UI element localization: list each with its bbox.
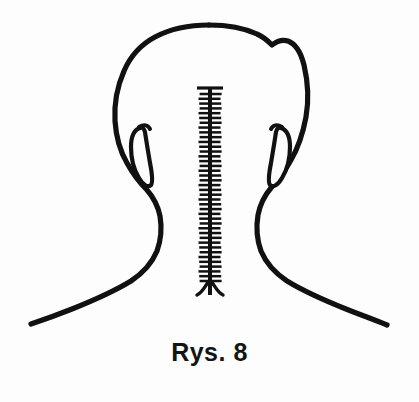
right-ear: [269, 128, 290, 187]
figure-container: Rys. 8 Rys. 8: [0, 0, 419, 402]
head-outline-left: [31, 25, 209, 324]
figure-caption: Rys. 8: [0, 338, 419, 367]
head-outline-right: [209, 25, 387, 325]
midline-suture: [197, 88, 223, 295]
